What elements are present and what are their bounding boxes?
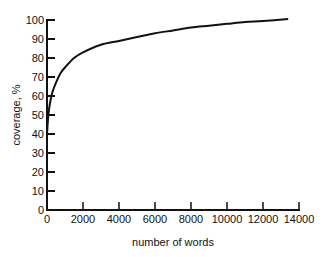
- y-tick-label: 50: [32, 109, 44, 121]
- y-tick-label: 80: [32, 52, 44, 64]
- x-axis: 02000400060008000100001200014000: [44, 202, 314, 225]
- y-axis: 0102030405060708090100: [26, 14, 55, 216]
- x-axis-label: number of words: [132, 236, 214, 248]
- x-tick-label: 12000: [248, 213, 279, 225]
- x-ticks: 02000400060008000100001200014000: [44, 202, 314, 225]
- y-tick-label: 10: [32, 185, 44, 197]
- x-tick-label: 6000: [143, 213, 167, 225]
- coverage-curve: [47, 19, 288, 134]
- coverage-chart: 0102030405060708090100 02000400060008000…: [0, 0, 326, 257]
- y-tick-label: 60: [32, 90, 44, 102]
- y-tick-label: 100: [26, 14, 44, 26]
- y-tick-label: 70: [32, 71, 44, 83]
- y-tick-label: 30: [32, 147, 44, 159]
- y-tick-label: 90: [32, 33, 44, 45]
- y-tick-label: 20: [32, 166, 44, 178]
- x-tick-label: 10000: [212, 213, 243, 225]
- y-axis-label: coverage, %: [10, 84, 22, 145]
- y-ticks: 0102030405060708090100: [26, 14, 55, 216]
- x-tick-label: 2000: [71, 213, 95, 225]
- y-tick-label: 40: [32, 128, 44, 140]
- x-tick-label: 14000: [284, 213, 315, 225]
- x-tick-label: 8000: [179, 213, 203, 225]
- x-tick-label: 0: [44, 213, 50, 225]
- x-tick-label: 4000: [107, 213, 131, 225]
